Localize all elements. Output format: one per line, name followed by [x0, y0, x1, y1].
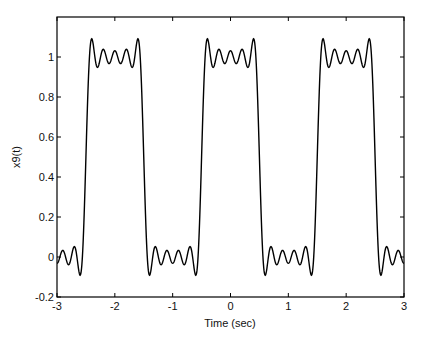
x-tick-labels: -3-2-10123 — [52, 300, 407, 312]
plot-border — [57, 17, 404, 297]
y-tick-label: 0.6 — [39, 131, 54, 143]
axis-ticks — [57, 17, 404, 297]
line-chart: -3-2-10123 -0.200.20.40.60.81 Time (sec)… — [0, 0, 430, 339]
y-tick-label: 0.8 — [39, 91, 54, 103]
x-tick-label: 3 — [401, 300, 407, 312]
y-axis-label: x9(t) — [10, 146, 22, 168]
y-tick-label: -0.2 — [35, 291, 54, 303]
x-tick-label: -1 — [168, 300, 178, 312]
y-tick-label: 0.4 — [39, 171, 54, 183]
x-tick-label: 2 — [343, 300, 349, 312]
x-tick-label: -2 — [110, 300, 120, 312]
x-axis-label: Time (sec) — [204, 317, 256, 329]
plot-frame — [57, 17, 404, 297]
y-tick-label: 1 — [48, 51, 54, 63]
y-tick-label: 0 — [48, 251, 54, 263]
x-tick-label: 1 — [285, 300, 291, 312]
data-line-x9 — [57, 39, 404, 275]
y-tick-label: 0.2 — [39, 211, 54, 223]
y-tick-labels: -0.200.20.40.60.81 — [35, 51, 54, 303]
x-tick-label: 0 — [227, 300, 233, 312]
